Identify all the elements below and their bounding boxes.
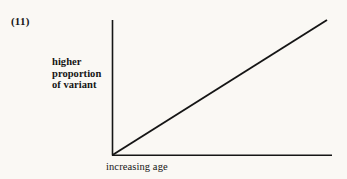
y-axis-label-line-1: higher — [52, 56, 108, 68]
figure-container: (11) higher proportion of variant increa… — [0, 0, 347, 179]
y-axis-label: higher proportion of variant — [52, 56, 108, 91]
y-axis-label-line-3: of variant — [52, 79, 108, 91]
y-axis-label-line-2: proportion — [52, 68, 108, 80]
x-axis-label: increasing age — [106, 161, 168, 173]
trend-line-series-1 — [113, 20, 328, 155]
